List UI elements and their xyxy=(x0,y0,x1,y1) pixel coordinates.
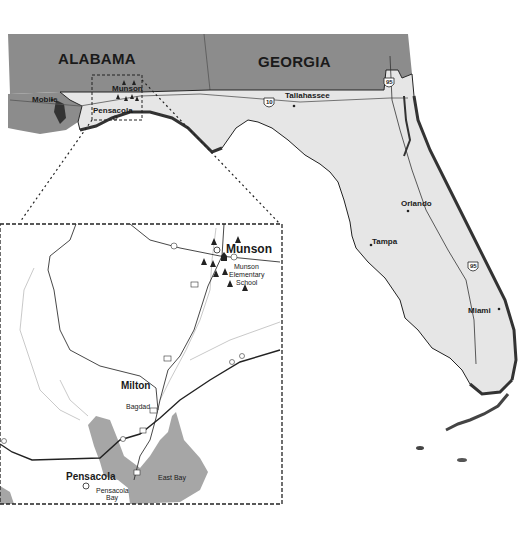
inset-map: Munson Munson Elementary School Milton B… xyxy=(0,224,282,504)
state-label-alabama: ALABAMA xyxy=(58,50,136,67)
inset-label-school-2: Elementary xyxy=(229,271,265,279)
city-label-mobile: Mobile xyxy=(32,95,58,104)
inset-label-milton: Milton xyxy=(121,380,150,391)
inset-label-east-bay: East Bay xyxy=(158,474,187,482)
city-label-miami: Miami xyxy=(468,306,491,315)
connector-line-left xyxy=(20,120,92,222)
inset-label-school-1: Munson xyxy=(234,263,259,270)
interstate-95-shield-north: 95 xyxy=(384,78,394,87)
florida-keys xyxy=(446,394,508,430)
florida-locator-map: ALABAMA GEORGIA Mobile Munson Pensacola … xyxy=(0,0,532,544)
inset-label-pensacola-bay-1: Pensacola xyxy=(96,487,129,494)
city-label-tallahassee: Tallahassee xyxy=(285,91,330,100)
inset-label-pensacola-bay-2: Bay xyxy=(106,494,119,502)
inset-label-pensacola: Pensacola xyxy=(66,471,116,482)
city-label-munson: Munson xyxy=(112,84,143,93)
interstate-10-shield: 10 xyxy=(264,98,274,107)
svg-text:95: 95 xyxy=(470,263,477,269)
state-label-georgia: GEORGIA xyxy=(258,53,331,70)
city-label-pensacola: Pensacola xyxy=(93,106,133,115)
interstate-95-shield-south: 95 xyxy=(468,262,478,271)
inset-label-school-3: School xyxy=(236,279,258,286)
inset-label-bagdad: Bagdad xyxy=(126,403,150,411)
city-label-tampa: Tampa xyxy=(372,237,398,246)
city-label-orlando: Orlando xyxy=(401,199,432,208)
svg-text:95: 95 xyxy=(386,79,393,85)
svg-text:10: 10 xyxy=(266,99,273,105)
